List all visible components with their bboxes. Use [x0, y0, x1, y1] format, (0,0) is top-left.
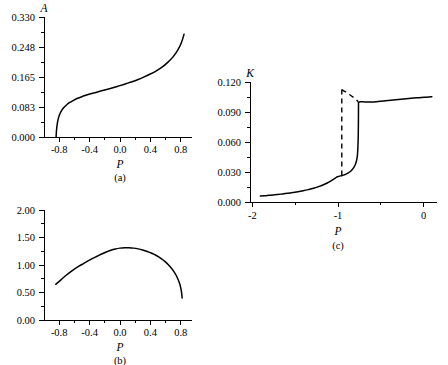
- panel-a: 0.000 0.083 0.165 0.248 0.330 -0.8 -0.4 …: [0, 0, 230, 182]
- y-ticklabel-c-0: 0.000: [217, 197, 241, 208]
- panel-b: 0.00 0.50 1.00 1.50 2.00 -0.8 -0.4 0.0 0…: [0, 182, 230, 365]
- x-ticklabel-b-2: 0.0: [113, 327, 126, 338]
- caption-c: (c): [332, 240, 344, 252]
- x-ticklabel-a-2: 0.0: [113, 144, 126, 155]
- y-ticklabel-c-4: 0.120: [217, 77, 241, 88]
- x-axislabel-b: P: [115, 341, 123, 353]
- y-ticklabel-c-3: 0.090: [217, 107, 241, 118]
- data-curve-b: [56, 248, 182, 298]
- x-ticklabel-a-0: -0.8: [51, 144, 68, 155]
- y-axislabel-a: A: [39, 2, 48, 14]
- x-ticklabel-c-1: -1: [334, 210, 343, 221]
- x-ticklabel-a-3: 0.4: [144, 144, 158, 155]
- x-ticklabel-a-1: -0.4: [81, 144, 98, 155]
- panel-b-plot: 0.00 0.50 1.00 1.50 2.00 -0.8 -0.4 0.0 0…: [0, 182, 230, 365]
- data-curve-c-upper: [359, 97, 432, 103]
- panel-a-plot: 0.000 0.083 0.165 0.248 0.330 -0.8 -0.4 …: [0, 0, 230, 182]
- x-ticklabel-b-0: -0.8: [51, 327, 68, 338]
- y-ticklabel-b-1: 0.50: [17, 287, 35, 298]
- data-curve-c-unstable: [342, 90, 358, 102]
- x-ticklabel-c-2: 0: [421, 210, 426, 221]
- x-axislabel-a: P: [115, 158, 123, 170]
- y-ticklabel-a-1: 0.083: [11, 102, 35, 113]
- y-ticklabel-a-0: 0.000: [11, 132, 35, 143]
- y-ticklabel-c-1: 0.030: [217, 167, 241, 178]
- caption-b: (b): [114, 355, 127, 365]
- data-curve-c-lower-cont: [342, 103, 359, 176]
- x-ticklabel-a-4: 0.8: [174, 144, 187, 155]
- y-ticklabel-c-2: 0.060: [217, 137, 241, 148]
- x-axislabel-c: P: [333, 225, 341, 237]
- x-ticklabel-b-3: 0.4: [144, 327, 158, 338]
- x-ticklabel-b-4: 0.8: [174, 327, 187, 338]
- panel-c: 0.000 0.030 0.060 0.090 0.120 -2 -1 0 K …: [212, 62, 448, 274]
- y-ticklabel-b-0: 0.00: [17, 315, 35, 326]
- curve-group-c: [260, 90, 432, 196]
- y-ticklabel-a-2: 0.165: [11, 72, 35, 83]
- curve-group-b: [56, 248, 182, 298]
- figure-container: 0.000 0.083 0.165 0.248 0.330 -0.8 -0.4 …: [0, 0, 448, 365]
- y-axislabel-c: K: [245, 67, 255, 79]
- y-ticklabel-b-3: 1.50: [17, 232, 35, 243]
- x-ticklabel-b-1: -0.4: [81, 327, 98, 338]
- panel-c-plot: 0.000 0.030 0.060 0.090 0.120 -2 -1 0 K …: [212, 62, 448, 274]
- data-curve-a: [56, 34, 184, 137]
- x-ticklabel-c-0: -2: [248, 210, 257, 221]
- data-curve-c-lower: [260, 176, 341, 196]
- y-ticklabel-b-4: 2.00: [17, 205, 35, 216]
- curve-group-a: [56, 34, 184, 137]
- y-ticklabel-a-3: 0.248: [11, 42, 35, 53]
- y-ticklabel-b-2: 1.00: [17, 260, 35, 271]
- y-ticklabel-a-4: 0.330: [11, 12, 35, 23]
